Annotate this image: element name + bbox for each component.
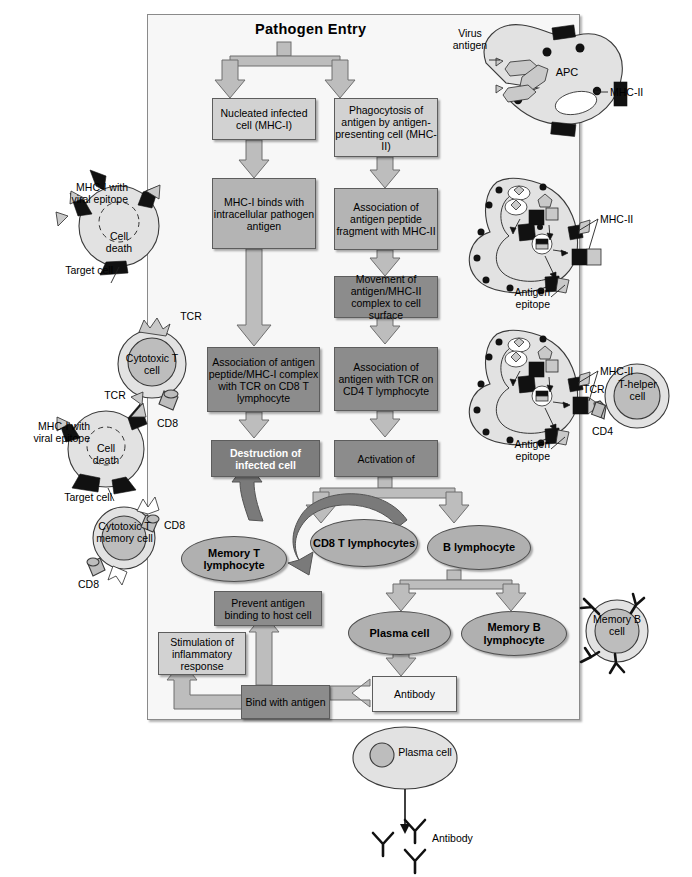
box-association-tcr-cd8[interactable]: Association of antigen peptide/MHC-I com… xyxy=(207,347,320,412)
cell-label-cytotoxic-t-cell: Cytotoxic T cell xyxy=(122,352,182,376)
box-movement-mhc2-complex-label: Movement of antigen/MHC-II complex to ce… xyxy=(335,273,437,321)
ellipse-cd8-t-lymphocytes-label: CD8 T lymphocytes xyxy=(313,537,415,550)
box-bind-with-antigen[interactable]: Bind with antigen xyxy=(241,685,330,719)
label-tcr-top-left: TCR xyxy=(176,310,206,322)
label-cd8-memory-left: CD8 xyxy=(78,578,108,590)
ellipse-b-lymphocyte[interactable]: B lymphocyte xyxy=(427,525,531,570)
ellipse-memory-b-lymphocyte[interactable]: Memory B lymphocyte xyxy=(461,611,567,656)
ellipse-cd8-t-lymphocytes[interactable]: CD8 T lymphocytes xyxy=(310,519,418,567)
box-association-tcr-cd8-label: Association of antigen peptide/MHC-I com… xyxy=(208,356,319,404)
box-activation[interactable]: Activation of xyxy=(334,440,438,477)
label-cd8-memory-right: CD8 xyxy=(164,519,194,531)
label-tcr-left: TCR xyxy=(100,389,130,401)
cell-label-memory-b-cell: Memory B cell xyxy=(592,613,642,637)
box-phagocytosis-label: Phagocytosis of antigen by antigen-prese… xyxy=(335,104,437,152)
box-association-peptide-mhc2-label: Association of antigen peptide fragment … xyxy=(335,201,437,237)
ellipse-memory-t-lymphocyte[interactable]: Memory T lymphocyte xyxy=(181,536,287,582)
box-nucleated-infected-cell-label: Nucleated infected cell (MHC-I) xyxy=(213,107,315,131)
box-prevent-antigen-binding[interactable]: Prevent antigen binding to host cell xyxy=(214,591,322,626)
box-destruction-infected-cell[interactable]: Destruction of infected cell xyxy=(211,440,320,477)
label-cell-death-top: Cell death xyxy=(99,230,139,254)
page-title: Pathogen Entry xyxy=(255,21,366,37)
box-phagocytosis[interactable]: Phagocytosis of antigen by antigen-prese… xyxy=(334,98,438,157)
label-cd8-upper: CD8 xyxy=(157,417,187,429)
ellipse-memory-b-lymphocyte-label: Memory B lymphocyte xyxy=(462,621,566,646)
cell-label-apc: APC xyxy=(545,66,589,78)
diagram-canvas: Pathogen Entry Nucleated infected cell (… xyxy=(0,0,692,877)
box-mhc1-binds-label: MHC-I binds with intracellular pathogen … xyxy=(213,196,315,232)
label-antigen-epitope-low: Antigen epitope xyxy=(478,438,550,462)
box-association-tcr-cd4[interactable]: Association of antigen with TCR on CD4 T… xyxy=(334,347,438,411)
box-stimulation-inflammatory[interactable]: Stimulation of inflammatory response xyxy=(158,632,246,675)
cell-label-t-helper-cell: T-helper cell xyxy=(614,378,661,402)
label-cd4: CD4 xyxy=(592,425,622,437)
box-activation-label: Activation of xyxy=(357,453,414,465)
box-antibody-label: Antibody xyxy=(394,688,435,700)
cell-label-plasma-cell-bottom: Plasma cell xyxy=(398,746,452,758)
box-association-tcr-cd4-label: Association of antigen with TCR on CD4 T… xyxy=(335,361,437,397)
label-target-cell-bottom: Target cell xyxy=(56,491,112,503)
label-tcr-right: TCR xyxy=(583,383,611,395)
ellipse-plasma-cell[interactable]: Plasma cell xyxy=(348,611,451,655)
ellipse-plasma-cell-label: Plasma cell xyxy=(370,627,430,640)
label-target-cell-top: Target cell xyxy=(57,264,113,276)
ellipse-memory-t-lymphocyte-label: Memory T lymphocyte xyxy=(182,547,286,572)
label-virus-antigen: Virus antigen xyxy=(444,27,496,51)
cell-label-cytotoxic-t-memory-cell: Cytotoxic T memory cell xyxy=(96,520,153,544)
box-destruction-infected-cell-label: Destruction of infected cell xyxy=(212,447,319,471)
ellipse-b-lymphocyte-label: B lymphocyte xyxy=(443,541,515,554)
box-movement-mhc2-complex[interactable]: Movement of antigen/MHC-II complex to ce… xyxy=(334,276,438,318)
label-cell-death-bottom: Cell death xyxy=(86,442,126,466)
label-mhc2-top: MHC-II xyxy=(610,86,670,98)
box-antibody[interactable]: Antibody xyxy=(372,676,457,712)
label-mhc1-viral-epitope-top: MHC-I with viral epitope xyxy=(56,181,128,205)
label-mhc1-viral-epitope-bottom: MHC-I with viral epitope xyxy=(18,420,90,444)
box-association-peptide-mhc2[interactable]: Association of antigen peptide fragment … xyxy=(334,188,438,250)
label-mhc2-low: MHC-II xyxy=(600,365,660,377)
box-bind-with-antigen-label: Bind with antigen xyxy=(246,696,326,708)
label-antigen-epitope-mid: Antigen epitope xyxy=(478,286,550,310)
box-prevent-antigen-binding-label: Prevent antigen binding to host cell xyxy=(215,597,321,621)
box-nucleated-infected-cell[interactable]: Nucleated infected cell (MHC-I) xyxy=(212,98,316,140)
label-mhc2-mid: MHC-II xyxy=(600,213,660,225)
box-mhc1-binds[interactable]: MHC-I binds with intracellular pathogen … xyxy=(212,178,316,249)
box-stimulation-inflammatory-label: Stimulation of inflammatory response xyxy=(159,636,245,672)
label-antibody-bottom: Antibody xyxy=(432,832,492,844)
